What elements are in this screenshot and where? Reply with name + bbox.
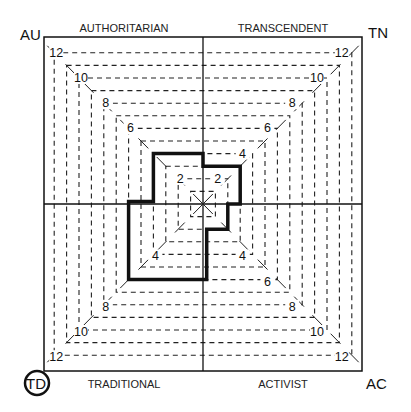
scale-label: 8: [289, 96, 296, 110]
corner-label-au: AU: [20, 26, 41, 43]
scale-label: 6: [264, 275, 271, 289]
side-label-traditional: TRADITIONAL: [88, 378, 161, 390]
corner-label-tn: TN: [368, 24, 388, 41]
scale-label: 12: [49, 46, 63, 60]
diagonal-guide: [203, 43, 362, 204]
scale-label: 10: [74, 325, 88, 339]
scale-label: 12: [335, 350, 349, 364]
scale-label: 4: [239, 147, 246, 161]
diagonal-guide: [44, 204, 203, 365]
side-label-activist: ACTIVIST: [258, 378, 308, 390]
scale-label: 10: [310, 71, 324, 85]
scale-label: 8: [102, 300, 109, 314]
scale-label: 4: [152, 249, 159, 263]
side-label-transcendent: TRANSCENDENT: [238, 22, 329, 34]
scale-label: 8: [289, 300, 296, 314]
scale-label: 4: [239, 249, 246, 263]
corner-label-ac: AC: [366, 375, 387, 392]
scale-label: 12: [49, 350, 63, 364]
scale-labels: 2681012246810124810124681012: [49, 46, 349, 364]
scale-label: 12: [335, 46, 349, 60]
corner-label-td: TD: [26, 375, 46, 392]
scale-label: 2: [177, 172, 184, 186]
scale-label: 10: [74, 71, 88, 85]
scale-label: 6: [264, 121, 271, 135]
quadrant-diagram: 2681012246810124810124681012 AU TN AC TD…: [0, 0, 411, 412]
scale-label: 6: [127, 121, 134, 135]
side-label-authoritarian: AUTHORITARIAN: [79, 22, 168, 34]
scale-label: 2: [214, 172, 221, 186]
scale-label: 8: [102, 96, 109, 110]
scale-label: 10: [310, 325, 324, 339]
